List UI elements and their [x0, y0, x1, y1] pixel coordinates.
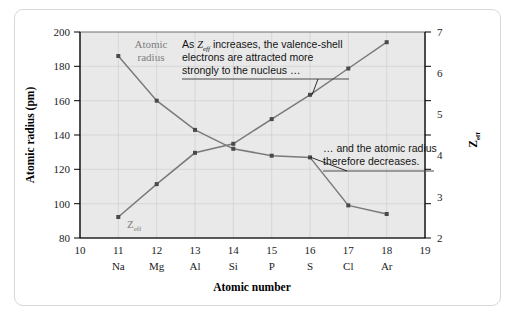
- xtick-label-10: 10: [75, 244, 87, 256]
- zeff-point-ar: [385, 40, 389, 44]
- element-label-al: Al: [190, 260, 201, 272]
- y2-axis-title: Zeff: [467, 132, 482, 148]
- xtick-label-16: 16: [305, 244, 317, 256]
- xtick-label-12: 12: [151, 244, 162, 256]
- left-axis-tick-labels: 80 100 120 140 160 180 200: [54, 26, 71, 244]
- atomic-radius-point-si: [231, 147, 235, 151]
- svg-text:Zeff: Zeff: [467, 132, 482, 148]
- xtick-label-11: 11: [113, 244, 124, 256]
- y-axis-title: Atomic radius (pm): [24, 87, 37, 184]
- zeff-point-s: [308, 93, 312, 97]
- element-symbol-labels: Na Mg Al Si P S Cl Ar: [112, 260, 393, 272]
- atomic-radius-zeff-chart: 80 100 120 140 160 180 200 Atomic radius…: [0, 0, 515, 315]
- atomic-radius-label-line2: radius: [138, 51, 165, 63]
- xtick-label-15: 15: [266, 244, 278, 256]
- y2tick-label-5: 5: [437, 108, 443, 120]
- atomic-radius-point-ar: [385, 212, 389, 216]
- xtick-label-19: 19: [420, 244, 432, 256]
- chart-stage: 80 100 120 140 160 180 200 Atomic radius…: [0, 0, 515, 315]
- ytick-label-160: 160: [54, 95, 71, 107]
- element-label-cl: Cl: [343, 260, 353, 272]
- element-label-mg: Mg: [149, 260, 165, 272]
- ytick-label-120: 120: [54, 163, 71, 175]
- annotation-radius-decrease-line1: … and the atomic radius: [323, 142, 437, 154]
- annotation-zeff-increase-line3: strongly to the nucleus …: [182, 64, 300, 76]
- atomic-radius-point-mg: [155, 99, 159, 103]
- x-axis-title: Atomic number: [213, 281, 291, 293]
- annotation-radius-decrease-line2: therefore decreases.: [323, 155, 419, 167]
- y2tick-label-7: 7: [437, 26, 443, 38]
- element-label-na: Na: [112, 260, 125, 272]
- y2tick-label-4: 4: [437, 149, 443, 161]
- y2tick-label-3: 3: [437, 191, 443, 203]
- ytick-label-140: 140: [54, 129, 71, 141]
- atomic-radius-point-p: [270, 154, 274, 158]
- ytick-label-80: 80: [59, 232, 71, 244]
- y2tick-label-6: 6: [437, 67, 443, 79]
- element-label-si: Si: [229, 260, 238, 272]
- atomic-radius-point-al: [193, 128, 197, 132]
- zeff-point-si: [231, 142, 235, 146]
- atomic-radius-point-cl: [346, 203, 350, 207]
- right-axis-tick-labels: 2 3 4 5 6 7: [437, 26, 443, 244]
- element-label-s: S: [307, 260, 313, 272]
- atomic-radius-series-label: Atomic radius: [135, 38, 168, 63]
- y2-axis-title-sub: eff: [474, 132, 482, 140]
- ytick-label-100: 100: [54, 198, 71, 210]
- zeff-point-al: [193, 151, 197, 155]
- annotation1-post: increases, the valence-shell: [210, 38, 343, 50]
- element-label-p: P: [269, 260, 275, 272]
- y2tick-label-2: 2: [437, 232, 443, 244]
- element-label-ar: Ar: [381, 260, 393, 272]
- zeff-point-p: [270, 117, 274, 121]
- xtick-label-13: 13: [190, 244, 202, 256]
- annotation-zeff-increase-line2: electrons are attracted more: [182, 51, 313, 63]
- xtick-label-14: 14: [228, 244, 240, 256]
- annotation1-pre: As: [182, 38, 197, 50]
- zeff-point-na: [116, 215, 120, 219]
- ytick-label-200: 200: [54, 26, 71, 38]
- left-axis-ticks: [74, 32, 80, 238]
- atomic-radius-label-line1: Atomic: [135, 38, 168, 50]
- x-axis-tick-labels: 10 11 12 13 14 15 16 17 18 19: [75, 244, 432, 256]
- ytick-label-180: 180: [54, 60, 71, 72]
- xtick-label-17: 17: [343, 244, 355, 256]
- right-axis-ticks: [425, 32, 431, 238]
- atomic-radius-point-na: [116, 54, 120, 58]
- annotation-radius-decrease: … and the atomic radius therefore decrea…: [310, 142, 437, 171]
- xtick-label-18: 18: [381, 244, 393, 256]
- zeff-point-cl: [346, 67, 350, 71]
- zeff-point-mg: [155, 182, 159, 186]
- zeff-series-label-sub: eff: [134, 225, 142, 233]
